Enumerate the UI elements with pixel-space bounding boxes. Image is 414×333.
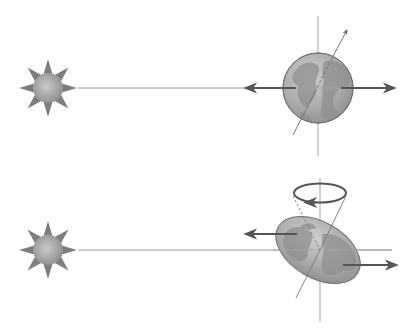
bottom-panel <box>19 178 396 322</box>
precession-diagram <box>0 0 414 333</box>
sun-icon <box>19 221 77 279</box>
sun-icon <box>19 59 77 117</box>
tilted-rotation-axis-top <box>331 30 347 60</box>
top-panel <box>19 16 394 156</box>
